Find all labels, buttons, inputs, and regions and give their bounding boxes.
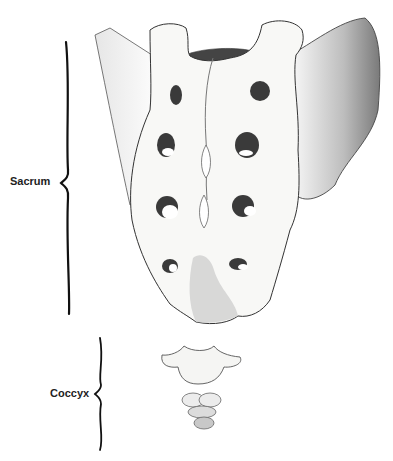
coccyx-label: Coccyx — [50, 387, 89, 399]
sacrum-label: Sacrum — [10, 175, 50, 187]
coccyx-brace — [95, 338, 101, 450]
foramen — [170, 85, 182, 105]
coccyx-bones — [162, 346, 241, 429]
foramen — [250, 81, 270, 101]
sacrum-bone — [95, 18, 380, 324]
sacrum-brace — [61, 42, 69, 314]
